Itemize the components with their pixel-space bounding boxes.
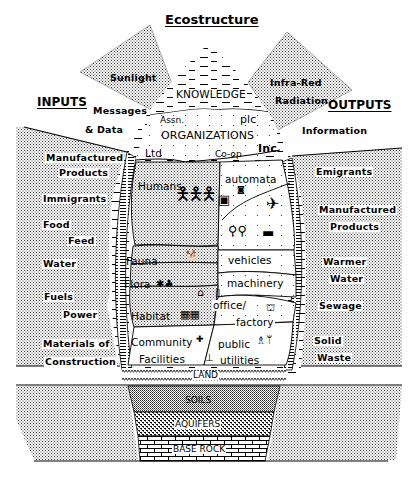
output-warmer-line2: Water bbox=[329, 274, 364, 284]
plant-tree-icon: ✱♣ bbox=[156, 279, 173, 289]
core-office: office/ bbox=[212, 300, 247, 311]
org-assn: Assn. bbox=[160, 116, 184, 125]
core-flora: Flora bbox=[124, 279, 151, 290]
inputs-heading: INPUTS bbox=[37, 96, 87, 108]
car-icon: ▬ bbox=[262, 226, 274, 239]
core-community-line1: Community bbox=[131, 337, 193, 348]
utility-pole-icon: ⊥ bbox=[205, 353, 214, 363]
input-immigrants: Immigrants bbox=[42, 194, 107, 204]
core-community-line2: Facilities bbox=[139, 354, 185, 365]
input-power: Power bbox=[62, 310, 98, 320]
factory-icon: ⛫ bbox=[266, 303, 275, 313]
bicycle-icon: ⚲⚲ bbox=[228, 224, 247, 237]
output-manufactured-line1: Manufactured bbox=[318, 205, 397, 215]
input-data: & Data bbox=[85, 125, 123, 135]
buildings-icon: ▦▦ bbox=[180, 309, 199, 320]
input-sunlight: Sunlight bbox=[110, 73, 157, 83]
input-manufactured-products-line1: Manufactured bbox=[45, 153, 124, 163]
airplane-icon: ✈ bbox=[266, 196, 279, 212]
input-manufactured-products-line2: Products bbox=[58, 168, 109, 178]
core-habitat: Habitat bbox=[131, 311, 170, 322]
ground-land: LAND bbox=[192, 371, 219, 380]
outputs-heading: OUTPUTS bbox=[328, 99, 392, 111]
org-plc: plc bbox=[240, 114, 256, 125]
input-feed: Feed bbox=[67, 236, 96, 246]
input-food: Food bbox=[42, 220, 71, 230]
input-fuels: Fuels bbox=[43, 292, 74, 302]
input-water: Water bbox=[42, 259, 77, 269]
org-coop: Co-op bbox=[215, 150, 242, 159]
house-icon: ⌂ bbox=[197, 287, 204, 298]
output-manufactured-line2: Products bbox=[329, 222, 380, 232]
org-inc: Inc bbox=[258, 143, 277, 154]
ground-base-rock: BASE ROCK bbox=[172, 445, 226, 454]
cross-icon: ✚ bbox=[196, 335, 204, 344]
output-warmer-line1: Warmer bbox=[322, 257, 367, 267]
core-fauna: Fauna bbox=[126, 256, 158, 267]
ecostructure-diagram bbox=[0, 0, 417, 480]
output-infrared-line1: Infra-Red bbox=[269, 78, 323, 88]
power-pylon-icon: ♗ᛘ bbox=[256, 335, 273, 346]
input-materials-line2: Construction bbox=[44, 357, 117, 367]
core-public-line2: utilities bbox=[220, 355, 259, 366]
core-machinery: machinery bbox=[226, 278, 285, 289]
diagram-title: Ecostructure bbox=[165, 13, 259, 26]
output-information: Information bbox=[302, 126, 367, 136]
animal-icon: 🐕 bbox=[186, 251, 198, 261]
output-sewage: Sewage bbox=[318, 301, 363, 311]
core-automata: automata bbox=[224, 174, 278, 185]
computer-icon: ▣ bbox=[218, 193, 230, 206]
output-emigrants: Emigrants bbox=[315, 167, 373, 177]
core-organizations: ORGANIZATIONS bbox=[161, 130, 254, 141]
ground-soils: SOILS bbox=[185, 396, 211, 405]
person-figures-icon: 🯅🯅🯅 bbox=[175, 185, 214, 203]
core-knowledge: KNOWLEDGE bbox=[175, 89, 247, 100]
input-materials-line1: Materials of bbox=[42, 339, 110, 349]
core-vehicles: vehicles bbox=[227, 255, 273, 266]
org-ltd: Ltd bbox=[145, 148, 162, 159]
input-messages: Messages bbox=[93, 106, 147, 116]
output-solid-line2: Waste bbox=[316, 353, 352, 363]
office-building-icon: ▯ bbox=[215, 288, 221, 298]
core-factory: factory bbox=[235, 317, 275, 328]
core-public-line1: public bbox=[218, 339, 250, 350]
output-solid-line1: Solid bbox=[313, 336, 343, 346]
robot-icon: ◙ bbox=[237, 186, 245, 194]
ground-aquifers: AQUIFERS bbox=[174, 420, 221, 429]
output-infrared-line2: Radiation bbox=[274, 96, 329, 106]
